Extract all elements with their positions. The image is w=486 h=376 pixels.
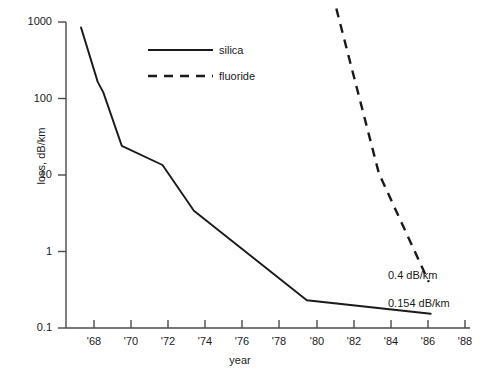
y-tick-label-1000: 1000 — [4, 16, 52, 27]
y-tick-label-1: 1 — [4, 246, 52, 257]
x-tick-label-72: '72 — [148, 336, 188, 347]
axis-lines — [66, 22, 470, 328]
legend-swatches — [148, 50, 213, 76]
x-tick-label-86: '86 — [408, 336, 448, 347]
chart-figure: 1000 100 10 1 0.1 loss, dB/km '68 '70 '7… — [0, 0, 486, 376]
x-tick-label-76: '76 — [222, 336, 262, 347]
chart-canvas — [0, 0, 486, 376]
y-axis-ticks — [58, 22, 66, 328]
y-axis-title: loss, dB/km — [35, 111, 47, 201]
x-axis-ticks — [94, 320, 465, 328]
x-tick-label-74: '74 — [185, 336, 225, 347]
x-tick-label-84: '84 — [371, 336, 411, 347]
x-tick-label-80: '80 — [297, 336, 337, 347]
series-line-fluoride — [336, 9, 429, 282]
x-tick-label-88: '88 — [445, 336, 485, 347]
x-axis-title: year — [190, 354, 290, 366]
x-tick-label-68: '68 — [74, 336, 114, 347]
legend-label-fluoride: fluoride — [219, 70, 255, 82]
x-tick-label-82: '82 — [334, 336, 374, 347]
annotation-silica-value: 0.154 dB/km — [388, 297, 450, 309]
x-tick-label-70: '70 — [111, 336, 151, 347]
legend-label-silica: silica — [219, 44, 243, 56]
x-tick-label-78: '78 — [259, 336, 299, 347]
y-tick-label-0.1: 0.1 — [4, 322, 52, 333]
annotation-fluoride-value: 0.4 dB/km — [388, 269, 438, 281]
y-tick-label-100: 100 — [4, 93, 52, 104]
